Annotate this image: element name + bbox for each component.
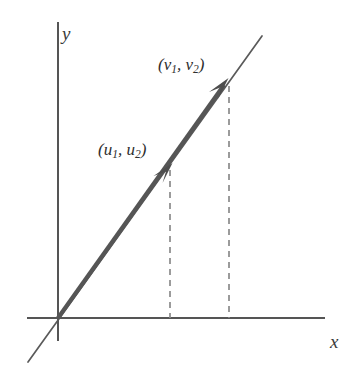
- x-axis-label: x: [330, 332, 338, 351]
- point-label-u-var2: u: [126, 140, 135, 159]
- vector-diagram-figure: y x (v1, v2) (u1, u2): [0, 0, 349, 370]
- point-label-u-close: ): [141, 140, 147, 159]
- point-label-u: (u1, u2): [98, 141, 146, 161]
- y-axis-label: y: [62, 24, 70, 43]
- point-label-u-var1: u: [104, 140, 113, 159]
- point-label-v-var2: v: [186, 55, 194, 74]
- point-label-v-separator: ,: [177, 55, 186, 74]
- vector-v-shaft: [58, 85, 224, 318]
- point-label-v: (v1, v2): [158, 56, 205, 76]
- point-label-v-close: ): [199, 55, 205, 74]
